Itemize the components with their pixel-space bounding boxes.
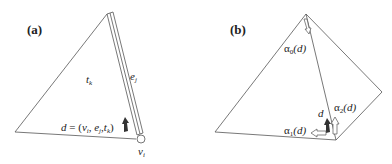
panel-a-label: (a) [27, 22, 42, 37]
alpha1-label: α1(d) [284, 124, 306, 138]
alpha2-label: α2(d) [334, 101, 356, 115]
edge-ej-label: ej [130, 70, 137, 84]
edge-ej-strip [107, 12, 143, 135]
alpha0-label: α0(d) [284, 42, 306, 56]
face-tk-label: tk [86, 73, 93, 87]
panel-b: (b) α0(d) α2(d) α1(d) d [215, 14, 382, 140]
alpha1-arrow-icon [311, 129, 326, 137]
alpha0-arrow-icon [304, 19, 311, 34]
vertex-vi-circle [137, 135, 145, 143]
dart-arrow-icon [122, 117, 129, 132]
panel-a: (a) tk ej vi d = (vi, ej,tk) [15, 12, 145, 159]
vertex-vi-label: vi [138, 145, 145, 159]
panel-b-label: (b) [230, 22, 246, 37]
pyramid-front-edge [306, 14, 336, 140]
dart-definition: d = (vi, ej,tk) [61, 121, 114, 135]
combinatorial-map-diagram: (a) tk ej vi d = (vi, ej,tk) (b) [0, 0, 392, 164]
dart-d-label: d [318, 107, 324, 119]
